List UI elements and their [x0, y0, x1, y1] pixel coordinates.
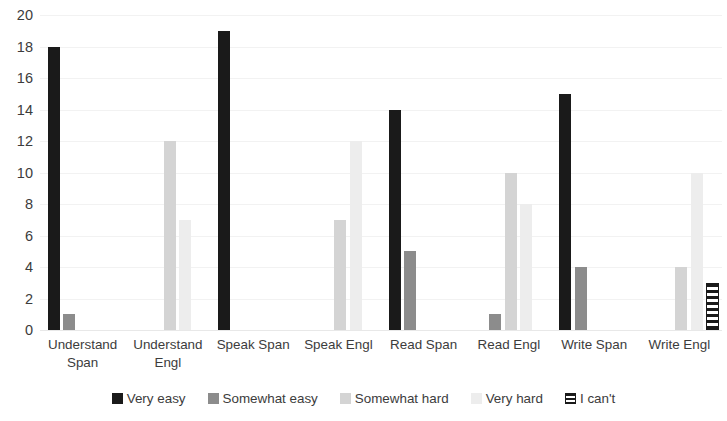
bar[interactable] [179, 220, 191, 330]
bar[interactable] [218, 31, 230, 330]
bar[interactable] [334, 220, 346, 330]
bar-slot [148, 15, 160, 330]
legend-swatch-very-easy [112, 393, 123, 404]
legend-item[interactable]: I can't [565, 392, 615, 405]
bar-slot [520, 15, 532, 330]
legend-label: Somewhat easy [223, 392, 318, 405]
bar[interactable] [350, 141, 362, 330]
bar-slot [505, 15, 517, 330]
bar-slot [234, 15, 246, 330]
bar-group [381, 15, 466, 330]
chart-legend: Very easySomewhat easySomewhat hardVery … [0, 392, 727, 405]
y-tick-label: 4 [25, 260, 33, 275]
bar[interactable] [675, 267, 687, 330]
x-tick-label-line: Understand [126, 336, 209, 354]
bar-group-bars [40, 15, 125, 330]
legend-item[interactable]: Somewhat hard [340, 392, 449, 405]
bar-group [466, 15, 551, 330]
bar-slot [280, 15, 292, 330]
bar-chart: 20181614121086420 UnderstandSpanUndersta… [0, 0, 727, 421]
x-tick-label-line: Write Span [553, 336, 636, 354]
bar[interactable] [489, 314, 501, 330]
bar-slot [706, 15, 718, 330]
bar[interactable] [691, 173, 703, 331]
bar-slot [435, 15, 447, 330]
plot-area [40, 15, 722, 330]
bar[interactable] [164, 141, 176, 330]
bar-slot [319, 15, 331, 330]
legend-label: Very easy [127, 392, 186, 405]
bar[interactable] [575, 267, 587, 330]
bar-slot [660, 15, 672, 330]
bar-slot [79, 15, 91, 330]
bar-slot [536, 15, 548, 330]
bar[interactable] [520, 204, 532, 330]
bar[interactable] [404, 251, 416, 330]
legend-item[interactable]: Somewhat easy [208, 392, 318, 405]
bar[interactable] [63, 314, 75, 330]
bar-slot [559, 15, 571, 330]
bar-slot [303, 15, 315, 330]
bar-slot [474, 15, 486, 330]
bar-slot [218, 15, 230, 330]
legend-label: I can't [580, 392, 615, 405]
y-axis: 20181614121086420 [0, 0, 40, 345]
bar-group-bars [125, 15, 210, 330]
x-tick-label: Read Span [381, 336, 466, 382]
y-tick-label: 0 [25, 323, 33, 338]
legend-swatch-i-cant [565, 393, 576, 404]
y-tick-label: 18 [17, 39, 33, 54]
legend-label: Very hard [486, 392, 543, 405]
bar-slot [389, 15, 401, 330]
bar-group-bars [381, 15, 466, 330]
bar-slot [63, 15, 75, 330]
x-tick-label: UnderstandEngl [125, 336, 210, 382]
bar-slot [621, 15, 633, 330]
bar-slot [590, 15, 602, 330]
legend-item[interactable]: Very easy [112, 392, 186, 405]
bar-groups [40, 15, 722, 330]
bar[interactable] [505, 173, 517, 331]
bar-group-bars [637, 15, 722, 330]
bar-group-bars [466, 15, 551, 330]
y-tick-label: 2 [25, 291, 33, 306]
x-tick-label: Write Span [552, 336, 637, 382]
bar-slot [691, 15, 703, 330]
bar-slot [164, 15, 176, 330]
bar-group [296, 15, 381, 330]
bar-slot [179, 15, 191, 330]
x-tick-label-line: Understand [41, 336, 124, 354]
bar-slot [451, 15, 463, 330]
bar[interactable] [389, 110, 401, 331]
y-tick-label: 6 [25, 228, 33, 243]
x-tick-label: Speak Engl [296, 336, 381, 382]
bar[interactable] [706, 283, 718, 330]
bar-group-bars [211, 15, 296, 330]
bar-group [125, 15, 210, 330]
bar-slot [48, 15, 60, 330]
bar-group-bars [552, 15, 637, 330]
bar-slot [350, 15, 362, 330]
bar-slot [334, 15, 346, 330]
x-tick-label-line: Write Engl [638, 336, 721, 354]
bar-slot [265, 15, 277, 330]
x-tick-label-line: Read Span [382, 336, 465, 354]
legend-item[interactable]: Very hard [471, 392, 543, 405]
bar-group [552, 15, 637, 330]
bar-slot [489, 15, 501, 330]
y-tick-label: 12 [17, 134, 33, 149]
x-tick-label: Write Engl [637, 336, 722, 382]
x-tick-label-line: Span [41, 354, 124, 372]
y-tick-label: 16 [17, 71, 33, 86]
x-tick-label-line: Speak Span [212, 336, 295, 354]
bar-group-bars [296, 15, 381, 330]
bar-group [211, 15, 296, 330]
bar-slot [404, 15, 416, 330]
x-tick-label: Read Engl [466, 336, 551, 382]
bar-slot [133, 15, 145, 330]
bar-group [40, 15, 125, 330]
bar-slot [365, 15, 377, 330]
bar[interactable] [559, 94, 571, 330]
bar[interactable] [48, 47, 60, 331]
legend-swatch-very-hard [471, 393, 482, 404]
